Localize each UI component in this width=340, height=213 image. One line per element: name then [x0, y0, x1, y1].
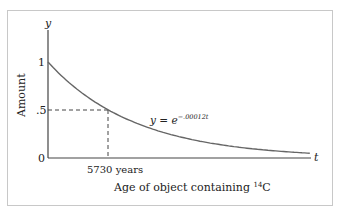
x-tick-half-life: 5730 years — [87, 164, 143, 175]
decay-curve — [48, 62, 310, 153]
y-axis-title: Amount — [15, 73, 28, 118]
equation-label: y = e−.00012t — [149, 113, 209, 126]
y-tick-half: .5 — [36, 104, 47, 117]
y-tick-1: 1 — [38, 56, 45, 69]
chart-svg: y t 1 .5 0 5730 years Amount Age of obje… — [0, 0, 340, 213]
x-axis-var-label: t — [314, 151, 319, 164]
y-tick-0: 0 — [38, 152, 45, 165]
y-axis-var-label: y — [44, 17, 52, 30]
x-axis-title: Age of object containing 14C — [113, 181, 271, 194]
